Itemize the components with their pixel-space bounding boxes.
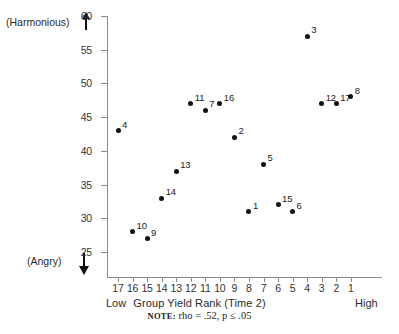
data-point-label: 3 xyxy=(311,25,316,35)
data-point-label: 7 xyxy=(209,99,214,109)
data-point xyxy=(116,128,121,133)
data-point-label: 8 xyxy=(355,86,360,96)
data-point xyxy=(145,236,150,241)
data-point xyxy=(217,101,222,106)
y-tick-label: 55 xyxy=(62,45,92,56)
y-tick-label-wrap: 55 xyxy=(62,45,92,56)
data-point-label: 5 xyxy=(268,153,273,163)
y-tick-label: 30 xyxy=(62,213,92,224)
y-tick-label: 40 xyxy=(62,146,92,157)
y-axis-line xyxy=(107,16,108,277)
data-point xyxy=(261,162,266,167)
data-point xyxy=(348,94,353,99)
y-tick-label: 60 xyxy=(62,11,92,22)
y-tick-mark xyxy=(101,117,107,118)
data-point xyxy=(305,34,310,39)
y-tick-label-wrap: 30 xyxy=(62,213,92,224)
y-tick-label-wrap: 25 xyxy=(62,247,92,258)
y-tick-mark xyxy=(101,151,107,152)
y-tick-label-wrap: 45 xyxy=(62,112,92,123)
y-tick-label-wrap: 40 xyxy=(62,146,92,157)
data-point xyxy=(232,135,237,140)
data-point xyxy=(319,101,324,106)
x-axis-line xyxy=(107,277,382,278)
data-point-label: 1 xyxy=(253,201,258,211)
scatter-chart: (Harmonious) (Angry) 2530354045505560 17… xyxy=(0,0,399,334)
chart-note-keyword: NOTE: xyxy=(148,311,176,321)
data-point-label: 10 xyxy=(137,221,147,231)
y-axis-bottom-anchor-label: (Angry) xyxy=(27,256,61,267)
y-tick-mark xyxy=(101,50,107,51)
y-tick-label: 25 xyxy=(62,247,92,258)
data-point-label: 14 xyxy=(166,187,176,197)
y-axis-top-anchor-label: (Harmonious) xyxy=(6,17,70,28)
y-tick-label-wrap: 60 xyxy=(62,11,92,22)
x-axis-right-anchor-label: High xyxy=(355,297,378,309)
data-point-label: 9 xyxy=(151,228,156,238)
y-tick-mark xyxy=(101,218,107,219)
x-axis-title: Group Yield Rank (Time 2) xyxy=(0,297,399,309)
y-tick-label-wrap: 50 xyxy=(62,78,92,89)
y-tick-mark xyxy=(101,185,107,186)
data-point-label: 11 xyxy=(195,93,204,103)
data-point-label: 13 xyxy=(180,160,190,170)
data-point xyxy=(290,209,295,214)
y-tick-label: 45 xyxy=(62,112,92,123)
y-tick-mark xyxy=(101,16,107,17)
y-axis-down-arrow-icon xyxy=(79,266,89,275)
data-point xyxy=(334,101,339,106)
data-point-label: 15 xyxy=(282,194,292,204)
data-point-label: 6 xyxy=(297,201,302,211)
y-tick-mark xyxy=(101,252,107,253)
y-tick-mark xyxy=(101,83,107,84)
data-point-label: 4 xyxy=(122,120,127,130)
y-tick-label-wrap: 35 xyxy=(62,180,92,191)
chart-note-text: rho = .52, p ≤ .05 xyxy=(176,310,252,321)
data-point xyxy=(203,108,208,113)
chart-note: NOTE: rho = .52, p ≤ .05 xyxy=(0,310,399,322)
y-tick-label: 35 xyxy=(62,180,92,191)
data-point xyxy=(246,209,251,214)
data-point xyxy=(159,196,164,201)
data-point xyxy=(174,169,179,174)
data-point-label: 2 xyxy=(238,126,243,136)
data-point-label: 16 xyxy=(224,93,234,103)
x-tick-label: 1 xyxy=(341,283,361,294)
data-point xyxy=(188,101,193,106)
data-point xyxy=(130,229,135,234)
data-point xyxy=(276,202,281,207)
y-tick-label: 50 xyxy=(62,78,92,89)
